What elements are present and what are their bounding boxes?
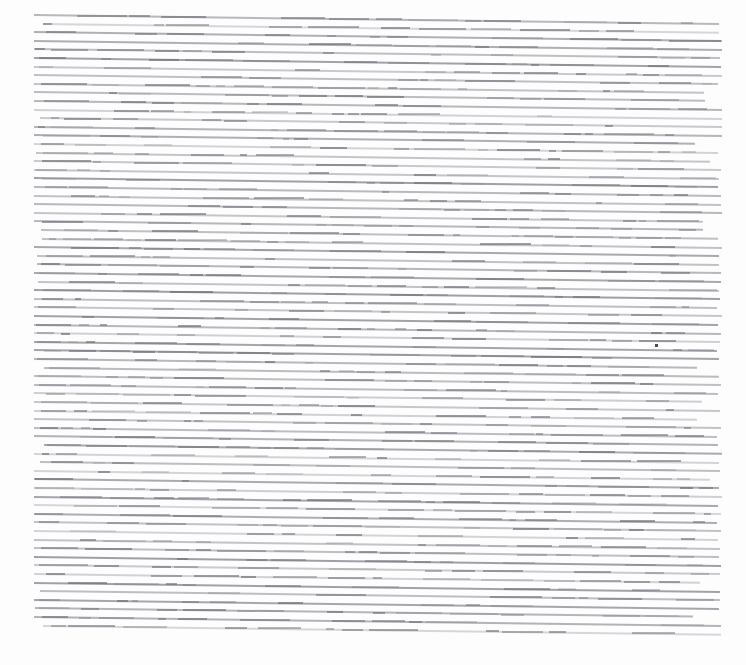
text-line-ink — [440, 561, 453, 563]
text-line-ink — [178, 325, 200, 327]
text-line-ink — [399, 208, 441, 210]
text-line-ink — [537, 287, 556, 289]
text-line-ink — [612, 340, 631, 342]
text-line-ink — [35, 513, 63, 515]
text-line-ink — [554, 399, 581, 401]
text-line-ink — [86, 341, 95, 343]
text-line-ink — [64, 118, 101, 120]
text-line-ink — [431, 54, 440, 56]
text-line-ink — [680, 487, 693, 489]
text-line-ink — [194, 575, 240, 577]
text-line-ink — [576, 511, 612, 513]
text-line-ink — [665, 203, 698, 205]
text-line-ink — [586, 374, 619, 376]
text-line-ink — [483, 570, 522, 572]
text-line-ink — [326, 628, 333, 630]
text-line-ink — [295, 69, 320, 71]
text-line-ink — [381, 311, 389, 313]
text-line-ink — [338, 328, 362, 330]
text-line-ink — [650, 194, 663, 196]
text-line-ink — [417, 329, 432, 331]
text-line-ink — [68, 582, 107, 584]
text-line-ink — [593, 443, 629, 445]
text-line-ink — [392, 483, 436, 485]
text-line-ink — [628, 495, 651, 497]
text-line-ink — [141, 136, 158, 138]
text-line-ink — [163, 437, 213, 439]
text-line-ink — [305, 284, 345, 286]
text-line-ink — [370, 36, 380, 38]
text-line-ink — [241, 223, 252, 225]
text-line-ink — [388, 509, 424, 511]
text-line-ink — [348, 113, 358, 115]
text-line-ink — [525, 124, 573, 126]
text-line-ink — [160, 213, 206, 215]
text-line-ink — [143, 402, 182, 404]
text-line-ink — [555, 296, 563, 298]
text-line-ink — [173, 515, 222, 517]
text-line-ink — [135, 342, 178, 344]
text-line-ink — [293, 422, 316, 424]
text-line-ink — [148, 222, 191, 224]
text-line-ink — [566, 485, 589, 487]
text-line-ink — [177, 334, 194, 336]
text-line-ink — [486, 132, 508, 134]
text-line-ink — [551, 434, 602, 436]
text-line-ink — [333, 267, 368, 269]
text-line-ink — [630, 555, 671, 557]
text-line-ink — [166, 24, 209, 26]
text-line-ink — [71, 195, 95, 197]
text-line-ink — [258, 447, 271, 449]
text-line-ink — [499, 46, 538, 48]
text-line-ink — [634, 263, 679, 265]
text-line-ink — [165, 549, 189, 551]
text-line-ink — [536, 433, 543, 435]
text-line-ink — [677, 478, 690, 480]
text-line-ink — [490, 596, 542, 598]
text-line-ink — [174, 566, 198, 568]
text-line-ink — [272, 95, 288, 97]
text-line-ink — [480, 476, 530, 478]
text-line-ink — [183, 50, 203, 52]
text-line-ink — [476, 321, 528, 323]
text-line-ink — [546, 442, 588, 444]
text-line-ink — [177, 558, 188, 560]
text-line-ink — [282, 533, 295, 535]
text-line-ink — [603, 90, 611, 92]
text-line-ink — [134, 162, 179, 164]
text-line-ink — [520, 98, 542, 100]
text-line-ink — [35, 478, 73, 480]
text-line-ink — [426, 621, 477, 623]
text-line-ink — [266, 507, 298, 509]
text-line-ink — [371, 474, 392, 476]
text-line-ink — [464, 527, 481, 529]
text-line-ink — [108, 264, 157, 266]
text-line-ink — [181, 102, 222, 104]
text-line-ink — [513, 528, 550, 530]
text-line-ink — [269, 318, 299, 320]
text-line-ink — [316, 594, 366, 596]
text-line-ink — [614, 151, 653, 153]
text-line-ink — [44, 350, 61, 352]
text-line-ink — [680, 177, 716, 179]
text-line-ink — [123, 626, 167, 628]
text-line-ink — [693, 521, 705, 523]
text-line-ink — [470, 381, 482, 383]
text-line-ink — [384, 130, 417, 132]
text-line-ink — [280, 335, 294, 337]
text-line-ink — [184, 111, 191, 113]
text-line-ink — [46, 573, 66, 575]
text-line-ink — [621, 39, 661, 41]
text-line-ink — [199, 352, 232, 354]
text-line-ink — [504, 588, 550, 590]
text-line-ink — [682, 151, 696, 153]
text-line-ink — [182, 480, 188, 482]
text-line-ink — [675, 186, 697, 188]
text-line-ink — [272, 353, 294, 355]
text-line-ink — [510, 218, 529, 220]
text-line-ink — [174, 377, 224, 379]
text-line-ink — [615, 108, 626, 110]
text-line-ink — [253, 249, 295, 251]
text-line-ink — [153, 256, 170, 258]
text-line-ink — [178, 446, 219, 448]
